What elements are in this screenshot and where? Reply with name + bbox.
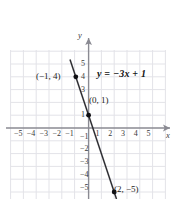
point-marker-neg1-4	[73, 74, 78, 79]
equation-label: y = −3x + 1	[97, 69, 146, 79]
y-tick-label-3: 3	[81, 86, 85, 94]
y-tick-label-4: 4	[81, 73, 85, 81]
y-tick-label-5: 5	[81, 60, 85, 68]
point-label-0-1: (0, 1)	[89, 96, 109, 105]
x-axis-label: x	[166, 131, 170, 140]
x-tick-label-1: 1	[95, 130, 99, 138]
point-marker-0-1	[86, 113, 91, 118]
point-label-neg1-4: (−1, 4)	[36, 72, 61, 81]
y-tick-label--5: −5	[80, 184, 89, 192]
point-label-2-neg5: (2, −5)	[114, 185, 139, 194]
y-tick-label--1: −1	[80, 133, 89, 141]
y-tick-label--4: −4	[80, 171, 89, 179]
y-tick-label--3: −3	[80, 158, 89, 166]
x-tick-label-3: 3	[121, 130, 125, 138]
x-tick-label--1: −1	[65, 130, 74, 138]
y-axis-label: y	[78, 31, 82, 40]
x-tick-label--2: −2	[52, 130, 61, 138]
x-tick-label-2: 2	[108, 130, 112, 138]
x-tick-label-4: 4	[134, 130, 138, 138]
y-tick-label-1: 1	[81, 111, 85, 119]
y-tick-label--2: −2	[80, 145, 89, 153]
x-tick-label--5: −5	[14, 130, 23, 138]
x-tick-label--3: −3	[40, 130, 49, 138]
x-tick-label--4: −4	[27, 130, 36, 138]
x-tick-label-5: 5	[147, 130, 151, 138]
graph-figure: y x −5 −4 −3 −2 −1 1 2 3 4 5 5 4 3 1 −1 …	[0, 0, 185, 199]
